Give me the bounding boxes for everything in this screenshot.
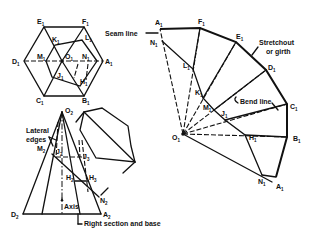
svg-text:A1: A1 [105, 58, 113, 67]
svg-text:D2: D2 [11, 211, 19, 220]
svg-text:J3: J3 [83, 153, 90, 162]
svg-text:M2: M2 [37, 145, 46, 154]
svg-text:O1: O1 [65, 53, 73, 62]
svg-text:O1: O1 [172, 134, 180, 143]
development-labels: A1 F1 E1 Stretchout or girth D1 Bend lin… [105, 18, 301, 192]
svg-text:N1: N1 [82, 53, 90, 62]
svg-text:N1: N1 [150, 39, 158, 48]
svg-text:or girth: or girth [266, 48, 291, 56]
svg-text:L1: L1 [183, 62, 190, 71]
front-view-labels: O2 Lateral edges M2 J2 J3 H2 H3 N2 Axis … [11, 107, 161, 228]
svg-text:H3: H3 [89, 174, 97, 183]
svg-text:B1: B1 [82, 97, 90, 106]
svg-text:edges: edges [26, 136, 46, 144]
svg-text:N1: N1 [258, 178, 266, 187]
cut-line [162, 41, 262, 175]
svg-text:Right section and base: Right section and base [84, 220, 161, 228]
svg-text:Axis: Axis [64, 203, 79, 210]
svg-text:L1: L1 [85, 34, 92, 43]
svg-text:O2: O2 [65, 107, 73, 116]
svg-text:E1: E1 [236, 33, 244, 42]
svg-text:F1: F1 [198, 18, 205, 27]
svg-text:M1: M1 [37, 53, 46, 62]
svg-text:Bend line: Bend line [240, 98, 272, 105]
svg-text:D1: D1 [268, 64, 276, 73]
svg-text:C1: C1 [36, 97, 44, 106]
svg-text:Stretchout: Stretchout [259, 39, 295, 46]
svg-text:A1: A1 [155, 19, 163, 28]
pyramid-development-diagram: E1 F1 K1 L1 M1 O1 N1 D1 A1 J1 H1 C1 B1 [0, 0, 312, 242]
svg-text:C1: C1 [290, 103, 298, 112]
svg-text:Lateral: Lateral [26, 127, 49, 134]
svg-text:K1: K1 [195, 89, 203, 98]
svg-text:E1: E1 [37, 18, 45, 27]
svg-text:A1: A1 [276, 183, 284, 192]
svg-text:Seam line: Seam line [105, 30, 138, 37]
svg-text:F1: F1 [82, 18, 89, 27]
svg-text:A2: A2 [103, 211, 111, 220]
svg-text:D1: D1 [12, 58, 20, 67]
svg-text:B1: B1 [293, 135, 301, 144]
svg-text:N2: N2 [100, 197, 108, 206]
